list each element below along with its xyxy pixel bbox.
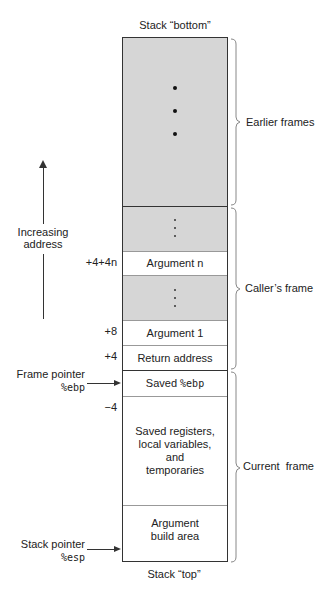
ellipsis-dot-icon — [174, 305, 176, 307]
offset-argument-n: +4+4n — [77, 256, 117, 268]
saved-registers-line3: and — [166, 451, 184, 464]
offset-saved-registers: −4 — [77, 401, 117, 413]
saved-registers-line4: temporaries — [146, 464, 204, 477]
stack-top-label: Stack “top” — [114, 568, 234, 580]
argument-build-area-cell: Argument build area — [123, 505, 227, 560]
ellipsis-dot-icon — [173, 132, 177, 136]
frame-pointer-register: %ebp — [0, 381, 85, 394]
stack-bottom-label: Stack “bottom” — [115, 19, 235, 31]
ellipsis-dot-icon — [174, 227, 176, 229]
stack-frame-diagram: Argument n Argument 1 Return address Sav… — [122, 37, 228, 562]
brace-label-callers-frame: Caller’s frame — [245, 282, 313, 294]
increasing-address-line1: Increasing — [8, 226, 78, 238]
brace-label-current-frame: Current frame — [243, 460, 314, 472]
saved-registers-cell: Saved registers, local variables, and te… — [123, 396, 227, 505]
earlier-frames-region — [123, 38, 227, 206]
saved-ebp-register: %ebp — [180, 377, 204, 390]
argument-build-line2: build area — [151, 530, 199, 543]
ellipsis-dot-icon — [174, 219, 176, 221]
saved-registers-line2: local variables, — [139, 438, 212, 451]
caller-args-ellipsis-upper — [123, 206, 227, 251]
argument-n-cell: Argument n — [123, 251, 227, 275]
offset-return-address: +4 — [77, 350, 117, 362]
increasing-address-label: Increasing address — [8, 226, 78, 250]
stack-pointer-label: Stack pointer %esp — [0, 538, 85, 564]
saved-registers-line1: Saved registers, — [135, 425, 214, 438]
frame-pointer-name: Frame pointer — [0, 368, 85, 381]
offset-argument-1: +8 — [77, 325, 117, 337]
saved-ebp-prefix: Saved — [146, 377, 180, 390]
frame-braces-icon — [228, 30, 248, 570]
brace-label-earlier-frames: Earlier frames — [246, 116, 314, 128]
ellipsis-dot-icon — [174, 289, 176, 291]
ellipsis-dot-icon — [174, 297, 176, 299]
stack-pointer-register: %esp — [0, 551, 85, 564]
argument-build-line1: Argument — [151, 517, 199, 530]
argument-1-cell: Argument 1 — [123, 320, 227, 345]
return-address-cell: Return address — [123, 345, 227, 370]
increasing-address-line2: address — [8, 238, 78, 250]
caller-args-ellipsis-lower — [123, 275, 227, 320]
saved-ebp-cell: Saved %ebp — [123, 370, 227, 396]
ellipsis-dot-icon — [173, 109, 177, 113]
frame-pointer-label: Frame pointer %ebp — [0, 368, 85, 394]
stack-pointer-name: Stack pointer — [0, 538, 85, 551]
ellipsis-dot-icon — [174, 235, 176, 237]
ellipsis-dot-icon — [173, 86, 177, 90]
